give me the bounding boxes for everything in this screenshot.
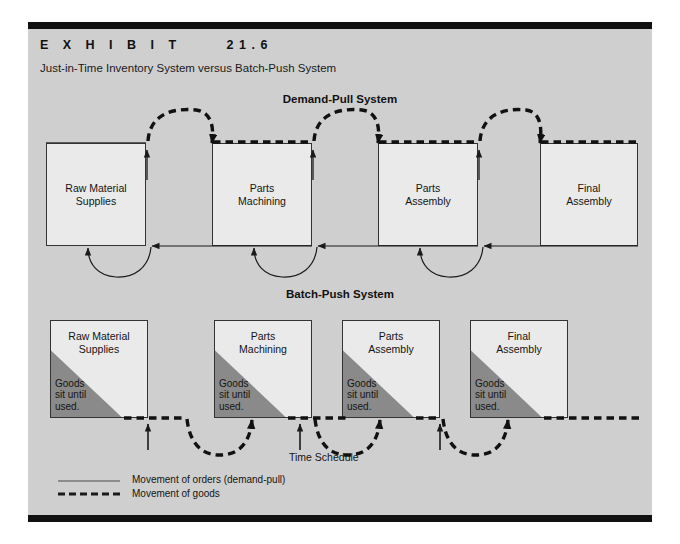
orders-flow-demand-pull [88,246,638,277]
exhibit-figure: E X H I B I T 21.6 Just-in-Time Inventor… [0,0,680,544]
goods-flow-batch-push [124,418,640,455]
flow-arrows-layer [0,0,680,544]
goods-flow-demand-pull [46,110,640,143]
pull-signal-arrows [147,150,479,180]
